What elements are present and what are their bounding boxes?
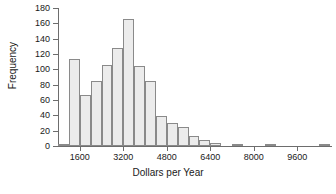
y-axis-tick-label: 180: [35, 4, 50, 13]
x-axis-tick: [297, 147, 298, 151]
histogram-bar: [189, 136, 200, 146]
y-axis-tick-labels: 020406080100120140160180: [0, 0, 50, 194]
y-axis-tick: [53, 23, 58, 24]
y-axis-tick: [53, 100, 58, 101]
x-axis-tick-label: 4800: [157, 152, 177, 162]
histogram-bar: [199, 140, 210, 146]
y-axis-tick-label: 120: [35, 50, 50, 59]
histogram-bar: [167, 123, 178, 146]
histogram-bar: [58, 144, 69, 146]
x-axis-tick-label: 9600: [287, 152, 307, 162]
x-axis-line: [58, 146, 332, 147]
histogram-bar: [134, 66, 145, 147]
y-axis-tick-label: 0: [45, 142, 50, 151]
histogram-bar: [145, 81, 156, 146]
x-axis-tick-label: 6400: [200, 152, 220, 162]
y-axis-tick: [53, 85, 58, 86]
histogram-bar: [102, 65, 113, 146]
histogram-bar: [91, 81, 102, 146]
y-axis-tick: [53, 54, 58, 55]
histogram-bar: [69, 59, 80, 146]
y-axis-tick-label: 40: [40, 111, 50, 120]
x-axis-tick: [123, 147, 124, 151]
x-axis-tick: [167, 147, 168, 151]
y-axis-tick: [53, 115, 58, 116]
histogram-bar: [156, 116, 167, 146]
y-axis-tick: [53, 131, 58, 132]
y-axis-tick: [53, 8, 58, 9]
x-axis-tick-label: 8000: [244, 152, 264, 162]
plot-area: [58, 8, 330, 146]
histogram-figure: Frequency 020406080100120140160180 Dolla…: [0, 0, 336, 194]
y-axis-tick-label: 20: [40, 126, 50, 135]
histogram-bar: [112, 48, 123, 146]
histogram-bar: [319, 144, 330, 146]
y-axis-tick: [53, 39, 58, 40]
x-axis-tick: [254, 147, 255, 151]
x-axis-title: Dollars per Year: [0, 167, 336, 178]
histogram-bar: [232, 144, 243, 146]
x-axis-tick-label: 1600: [70, 152, 90, 162]
x-axis-tick: [210, 147, 211, 151]
histogram-bar: [178, 127, 189, 146]
y-axis-tick: [53, 146, 58, 147]
y-axis-tick-label: 140: [35, 34, 50, 43]
x-axis-tick: [80, 147, 81, 151]
y-axis-tick-label: 80: [40, 80, 50, 89]
histogram-bar: [80, 95, 91, 146]
histogram-bar: [210, 143, 221, 146]
y-axis-tick-label: 100: [35, 65, 50, 74]
y-axis-tick: [53, 69, 58, 70]
histogram-bar: [123, 19, 134, 146]
histogram-bar: [265, 144, 276, 146]
y-axis-tick-label: 160: [35, 19, 50, 28]
x-axis-tick-label: 3200: [113, 152, 133, 162]
y-axis-tick-label: 60: [40, 96, 50, 105]
